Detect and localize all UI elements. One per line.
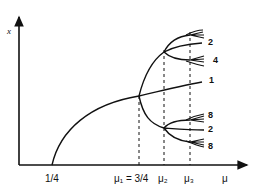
lower-branch-2 xyxy=(164,128,204,130)
upper-branch-mid xyxy=(164,52,190,60)
x-axis-label: μ xyxy=(222,174,228,184)
y-axis-label: x xyxy=(7,27,11,36)
label-lower-8-bottom: 8 xyxy=(208,142,213,151)
label-lower-2: 2 xyxy=(208,125,213,134)
label-upper-2: 2 xyxy=(208,38,213,47)
branch-1 xyxy=(139,82,202,96)
tick-1-4: 1/4 xyxy=(45,174,59,184)
lower-period2-arc xyxy=(139,96,164,128)
fixed-point-curve xyxy=(52,96,139,165)
label-upper-4: 4 xyxy=(213,56,218,65)
label-lower-8-top: 8 xyxy=(208,111,213,120)
bifurcation-plot xyxy=(0,0,256,195)
upper-period2-arc xyxy=(139,52,164,96)
label-1: 1 xyxy=(209,76,214,85)
tick-mu2: μ₂ xyxy=(158,174,168,184)
lower-branch-top xyxy=(164,120,190,128)
tick-mu1: μ₁ = 3/4 xyxy=(114,174,148,184)
tick-mu3: μ₃ xyxy=(184,174,194,184)
